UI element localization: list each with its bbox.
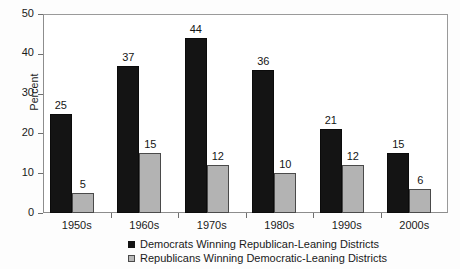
- y-tick-mark: [38, 94, 43, 95]
- y-tick-mark: [38, 173, 43, 174]
- x-axis-label: 1960s: [129, 219, 159, 231]
- bar: [387, 153, 409, 213]
- bar-value-label: 5: [80, 178, 86, 190]
- legend-swatch-republicans-icon: [128, 255, 135, 262]
- bar-value-label: 6: [417, 174, 423, 186]
- x-axis-label: 1990s: [332, 219, 362, 231]
- bar: [342, 165, 364, 213]
- bar-value-label: 37: [122, 51, 134, 63]
- y-tick-label: 40: [22, 46, 34, 58]
- legend: Democrats Winning Republican-Leaning Dis…: [128, 238, 387, 265]
- y-tick-label: 20: [22, 126, 34, 138]
- x-axis-label: 1970s: [197, 219, 227, 231]
- x-tick-mark: [178, 213, 179, 218]
- bar: [207, 165, 229, 213]
- y-tick-label: 0: [28, 206, 34, 218]
- y-tick-mark: [38, 133, 43, 134]
- x-tick-mark: [313, 213, 314, 218]
- legend-item-republicans: Republicans Winning Democratic-Leaning D…: [128, 252, 387, 266]
- bar: [139, 153, 161, 213]
- y-tick-mark: [38, 54, 43, 55]
- x-axis-label: 1980s: [264, 219, 294, 231]
- bar: [274, 173, 296, 213]
- y-tick-label: 50: [22, 7, 34, 19]
- bar: [50, 114, 72, 214]
- x-tick-mark: [381, 213, 382, 218]
- bar: [117, 66, 139, 213]
- y-tick-mark: [38, 213, 43, 214]
- bar: [72, 193, 94, 213]
- legend-item-democrats: Democrats Winning Republican-Leaning Dis…: [128, 238, 387, 252]
- x-tick-mark: [246, 213, 247, 218]
- bar: [185, 38, 207, 213]
- bar-value-label: 15: [144, 138, 156, 150]
- y-tick-label: 30: [22, 86, 34, 98]
- bar-value-label: 44: [190, 23, 202, 35]
- y-tick-label: 10: [22, 166, 34, 178]
- bar-value-label: 15: [392, 138, 404, 150]
- bar-value-label: 36: [257, 55, 269, 67]
- y-tick-mark: [38, 14, 43, 15]
- bar: [252, 70, 274, 213]
- x-tick-mark: [111, 213, 112, 218]
- bar-value-label: 10: [279, 158, 291, 170]
- bar: [409, 189, 431, 213]
- bar: [320, 129, 342, 213]
- bar-value-label: 25: [55, 99, 67, 111]
- legend-label-democrats: Democrats Winning Republican-Leaning Dis…: [140, 238, 379, 252]
- bar-value-label: 12: [212, 150, 224, 162]
- legend-swatch-democrats-icon: [128, 241, 135, 248]
- x-axis-label: 2000s: [399, 219, 429, 231]
- x-axis-label: 1950s: [62, 219, 92, 231]
- bar-value-label: 21: [325, 114, 337, 126]
- legend-label-republicans: Republicans Winning Democratic-Leaning D…: [140, 252, 387, 266]
- bar-chart: Percent 01020304050 1950s1960s1970s1980s…: [0, 0, 460, 269]
- bar-value-label: 12: [347, 150, 359, 162]
